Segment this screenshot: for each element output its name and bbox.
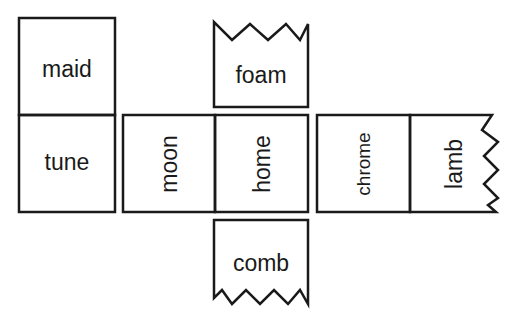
panel-foam-label: foam [235, 62, 286, 88]
panel-moon: moon [123, 115, 215, 212]
panel-maid-label: maid [42, 56, 92, 82]
panel-home: home [215, 115, 308, 212]
panel-chrome: chrome [317, 115, 410, 212]
word-panel-diagram: maid tune foam moon home comb chrome lam… [0, 0, 517, 323]
panel-maid: maid [19, 18, 115, 115]
panel-tune: tune [19, 115, 115, 212]
panel-comb-label: comb [233, 250, 289, 276]
panel-chrome-label: chrome [353, 132, 374, 195]
panel-tune-label: tune [45, 149, 90, 175]
panel-lamb: lamb [410, 115, 498, 212]
panel-comb: comb [214, 220, 308, 304]
panel-moon-label: moon [156, 135, 182, 193]
panel-home-label: home [249, 135, 275, 193]
panel-lamb-label: lamb [441, 139, 467, 189]
panel-foam: foam [214, 22, 308, 107]
